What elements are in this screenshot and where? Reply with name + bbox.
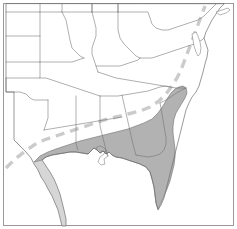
state-border-line — [100, 86, 170, 96]
state-border-line — [6, 78, 14, 92]
map-canvas — [0, 0, 237, 229]
long-island-outline — [216, 8, 230, 15]
state-border-line — [14, 92, 48, 100]
state-border-line — [6, 12, 40, 62]
state-border-line — [6, 4, 40, 12]
state-border-line — [118, 12, 140, 58]
state-border-line — [40, 58, 84, 62]
state-border-line — [118, 4, 216, 30]
state-border-line — [40, 78, 100, 96]
state-border-line — [62, 12, 84, 58]
coastline-outline — [6, 4, 224, 226]
state-border-line — [92, 4, 118, 12]
map-figure: Southeastern United States distribution … — [0, 0, 237, 229]
state-border-line — [96, 58, 140, 66]
state-border-line — [44, 117, 122, 130]
state-border-line — [44, 100, 48, 130]
state-border-line — [62, 4, 92, 12]
state-border-line — [98, 72, 186, 88]
state-border-line — [92, 12, 98, 72]
state-border-line — [40, 4, 62, 12]
state-border-line — [6, 62, 40, 78]
